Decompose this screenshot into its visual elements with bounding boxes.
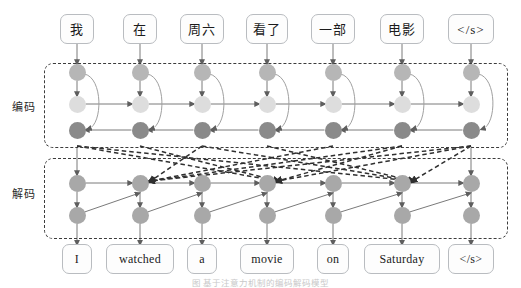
decoder-node-r1-c0: [69, 207, 86, 224]
target-token-6: </s>: [448, 244, 495, 274]
decoder-node-r0-c5: [394, 175, 411, 192]
encoder-node-r0-c6: [463, 64, 480, 81]
encoder-frame: [44, 63, 508, 148]
encoder-node-r1-c2: [194, 96, 211, 113]
encoder-node-r2-c6: [463, 122, 480, 139]
source-token-2: 周六: [180, 14, 224, 44]
decoder-node-r1-c4: [325, 207, 342, 224]
decoder-node-r1-c6: [463, 207, 480, 224]
encoder-node-r2-c3: [259, 122, 276, 139]
encoder-node-r2-c4: [325, 122, 342, 139]
source-token-0: 我: [60, 14, 94, 44]
encoder-node-r2-c5: [394, 122, 411, 139]
encoder-node-r1-c4: [325, 96, 342, 113]
decoder-node-r1-c5: [394, 207, 411, 224]
target-token-5: Saturday: [364, 244, 440, 274]
target-token-2: a: [187, 244, 217, 274]
encoder-node-r2-c2: [194, 122, 211, 139]
encoder-node-r1-c6: [463, 96, 480, 113]
target-token-1: watched: [106, 244, 174, 274]
encoder-label: 编码: [12, 98, 36, 114]
encoder-node-r0-c5: [394, 64, 411, 81]
decoder-node-r0-c3: [259, 175, 276, 192]
encoder-node-r2-c0: [69, 122, 86, 139]
encoder-node-r0-c2: [194, 64, 211, 81]
decoder-frame: [44, 158, 508, 239]
decoder-node-r0-c2: [194, 175, 211, 192]
figure-canvas: 编码 解码 我在周六看了一部电影</s> IwatchedamovieonSat…: [0, 0, 521, 288]
decoder-node-r1-c3: [259, 207, 276, 224]
encoder-node-r0-c3: [259, 64, 276, 81]
source-token-6: </s>: [448, 14, 494, 44]
target-token-4: on: [317, 244, 349, 274]
decoder-node-r1-c2: [194, 207, 211, 224]
source-token-1: 在: [123, 14, 157, 44]
figure-caption: 图 基于注意力机制的编码解码模型: [0, 276, 521, 288]
decoder-node-r1-c1: [132, 207, 149, 224]
encoder-node-r2-c1: [132, 122, 149, 139]
encoder-node-r1-c1: [132, 96, 149, 113]
decoder-node-r0-c0: [69, 175, 86, 192]
target-token-0: I: [62, 244, 92, 274]
encoder-node-r1-c3: [259, 96, 276, 113]
decoder-node-r0-c6: [463, 175, 480, 192]
decoder-node-r0-c4: [325, 175, 342, 192]
encoder-node-r0-c0: [69, 64, 86, 81]
decoder-label: 解码: [12, 185, 36, 201]
encoder-node-r0-c4: [325, 64, 342, 81]
source-token-4: 一部: [311, 14, 355, 44]
decoder-node-r0-c1: [132, 175, 149, 192]
encoder-node-r0-c1: [132, 64, 149, 81]
source-token-5: 电影: [380, 14, 424, 44]
source-token-3: 看了: [246, 14, 288, 44]
encoder-node-r1-c0: [69, 96, 86, 113]
encoder-node-r1-c5: [394, 96, 411, 113]
target-token-3: movie: [240, 244, 294, 274]
